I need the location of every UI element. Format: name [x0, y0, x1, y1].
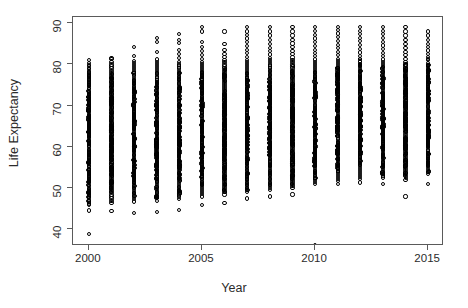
- data-point: [222, 52, 226, 56]
- data-point: [155, 71, 159, 75]
- data-point: [87, 123, 91, 127]
- data-point: [426, 75, 430, 79]
- data-point: [177, 52, 181, 56]
- data-point: [290, 29, 294, 33]
- data-point: [223, 182, 227, 186]
- data-point: [268, 33, 272, 37]
- data-point: [109, 101, 113, 105]
- data-point: [200, 180, 204, 184]
- data-point: [86, 168, 90, 172]
- data-point: [336, 163, 340, 167]
- x-tick-label: 2000: [58, 252, 118, 264]
- data-point: [268, 46, 272, 50]
- data-point: [155, 210, 159, 214]
- data-point: [336, 95, 340, 99]
- data-point: [87, 232, 91, 236]
- data-point: [426, 96, 430, 100]
- data-point: [245, 132, 249, 136]
- data-point: [268, 194, 272, 198]
- data-point: [200, 53, 204, 57]
- data-point: [155, 36, 159, 40]
- x-axis-title-label: Year: [221, 281, 246, 295]
- data-point: [381, 139, 385, 143]
- data-point: [87, 81, 91, 85]
- data-point: [177, 97, 181, 101]
- data-point: [178, 176, 182, 180]
- data-point: [245, 174, 249, 178]
- data-point: [268, 90, 272, 94]
- data-point: [427, 129, 431, 133]
- data-point: [336, 39, 340, 43]
- data-point: [245, 106, 249, 110]
- data-point: [291, 163, 295, 167]
- data-point: [110, 77, 114, 81]
- data-point: [336, 114, 340, 118]
- data-point: [200, 137, 204, 141]
- data-point: [222, 110, 226, 114]
- data-point: [403, 46, 407, 50]
- data-point: [109, 180, 113, 184]
- data-point: [403, 194, 407, 198]
- data-point: [200, 121, 204, 125]
- data-point: [223, 133, 227, 137]
- y-tick-label: 60: [38, 140, 64, 152]
- data-point: [132, 186, 136, 190]
- data-point: [313, 40, 317, 44]
- data-point: [313, 126, 317, 130]
- data-point: [87, 74, 91, 78]
- data-point: [87, 208, 91, 212]
- data-point: [200, 103, 204, 107]
- data-point: [290, 130, 294, 134]
- data-point: [426, 140, 430, 144]
- data-point: [177, 208, 181, 212]
- data-point: [290, 87, 294, 91]
- data-point: [313, 48, 317, 52]
- data-point: [403, 171, 407, 175]
- data-point: [403, 42, 407, 46]
- data-point: [222, 201, 226, 205]
- data-point: [177, 32, 181, 36]
- data-point: [86, 130, 90, 134]
- data-point: [155, 108, 159, 112]
- y-tick-label: 40: [38, 222, 64, 234]
- data-point: [110, 150, 114, 154]
- data-point: [359, 128, 363, 132]
- data-point: [132, 148, 136, 152]
- data-point: [268, 116, 272, 120]
- data-point: [155, 40, 159, 44]
- data-point: [313, 90, 317, 94]
- data-point: [177, 56, 181, 60]
- data-point: [200, 29, 204, 33]
- data-point: [404, 62, 408, 66]
- data-point: [290, 25, 294, 29]
- data-point: [223, 136, 227, 140]
- data-point: [268, 177, 272, 181]
- data-point: [109, 125, 113, 129]
- data-point: [268, 52, 272, 56]
- data-point: [177, 90, 181, 94]
- data-point: [381, 164, 385, 168]
- data-point: [245, 161, 249, 165]
- data-point: [200, 45, 204, 49]
- data-point: [268, 98, 272, 102]
- data-point: [381, 134, 385, 138]
- data-point: [222, 29, 226, 33]
- data-point: [110, 83, 114, 87]
- data-point: [426, 182, 430, 186]
- data-point: [291, 74, 295, 78]
- data-point: [426, 104, 430, 108]
- data-point: [290, 41, 294, 45]
- data-point: [291, 98, 295, 102]
- data-point: [268, 113, 272, 117]
- data-point: [154, 88, 158, 92]
- data-point: [336, 89, 340, 93]
- data-point: [155, 132, 159, 136]
- data-point: [381, 57, 385, 61]
- data-point: [291, 113, 295, 117]
- data-point: [403, 29, 407, 33]
- x-tick-mark: [427, 245, 428, 250]
- data-point: [200, 141, 204, 145]
- data-point: [200, 40, 204, 44]
- data-point: [358, 155, 362, 159]
- data-point: [245, 29, 249, 33]
